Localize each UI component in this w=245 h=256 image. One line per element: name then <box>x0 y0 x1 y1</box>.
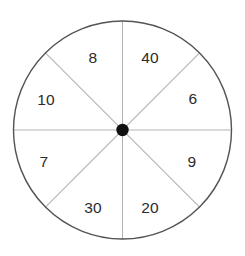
sector-label-top-right: 40 <box>141 50 159 66</box>
spinner-graphic <box>0 0 245 256</box>
spinner-hub <box>116 124 128 136</box>
sector-label-bottom-left: 30 <box>84 200 102 216</box>
sector-label-top-left: 8 <box>89 50 98 66</box>
sector-label-right-lower: 9 <box>188 154 197 170</box>
sector-label-left-lower: 7 <box>40 154 49 170</box>
spinner-figure: 40 6 9 20 30 7 10 8 <box>0 0 245 256</box>
sector-label-bottom-right: 20 <box>141 200 159 216</box>
sector-label-left-upper: 10 <box>37 92 55 108</box>
sector-label-right-upper: 6 <box>189 91 198 107</box>
